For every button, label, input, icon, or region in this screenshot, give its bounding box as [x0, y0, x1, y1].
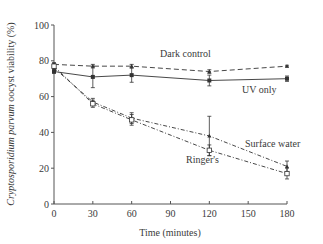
series-labels: Dark controlUV onlySurface waterRinger's: [160, 48, 301, 165]
series-layer: [52, 62, 289, 179]
x-tick-label: 0: [52, 208, 57, 219]
y-tick-label: 100: [34, 20, 49, 31]
marker-open-square: [207, 148, 211, 152]
y-axis-label-rest: oocyst viability (%): [5, 22, 17, 104]
marker-open-square: [129, 118, 133, 122]
marker-open-square: [285, 171, 289, 175]
series-label: UV only: [242, 84, 277, 95]
marker-square: [207, 78, 211, 82]
x-axis-label: Time (minutes): [139, 227, 201, 239]
x-tick-label: 150: [241, 208, 256, 219]
series-line: [54, 66, 287, 173]
series-line: [54, 64, 287, 71]
series-surface-water: [52, 64, 289, 171]
marker-open-square: [91, 102, 95, 106]
x-tick-label: 180: [280, 208, 295, 219]
series-ringer-s: [52, 63, 289, 178]
series-line: [54, 68, 287, 166]
series-label: Ringer's: [186, 154, 219, 165]
series-dark-control: [52, 62, 289, 73]
marker-square: [285, 77, 289, 81]
x-tick-label: 60: [127, 208, 137, 219]
series-line: [54, 72, 287, 81]
y-tick-label: 0: [44, 199, 49, 210]
y-tick-label: 40: [39, 127, 49, 138]
y-tick-label: 20: [39, 163, 49, 174]
series-label: Surface water: [245, 138, 301, 149]
y-axis-label-species: Cryptosporidium parvum: [5, 104, 16, 205]
marker-open-square: [52, 64, 56, 68]
marker-square: [91, 75, 95, 79]
x-tick-label: 120: [202, 208, 217, 219]
marker-square: [130, 73, 134, 77]
y-tick-label: 60: [39, 91, 49, 102]
y-axis-label: Cryptosporidium parvum oocyst viability …: [5, 22, 17, 205]
line-chart: 0204060801000306090120150180 Dark contro…: [0, 0, 323, 244]
y-tick-label: 80: [39, 55, 49, 66]
x-tick-label: 90: [166, 208, 176, 219]
x-tick-label: 30: [88, 208, 98, 219]
series-label: Dark control: [160, 48, 211, 59]
